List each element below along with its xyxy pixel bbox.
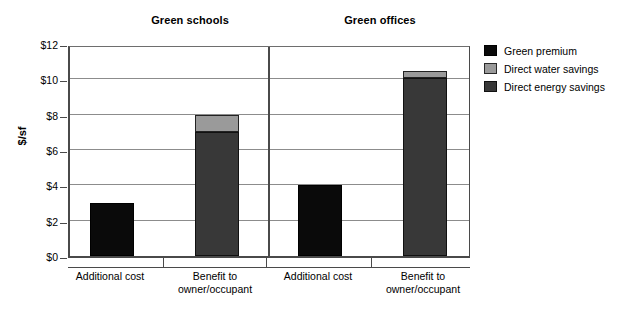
x-tick-label: Additional cost <box>50 270 170 283</box>
bar-segment <box>403 78 447 256</box>
legend-item-direct-energy-savings: Direct energy savings <box>484 80 605 93</box>
legend-label: Direct water savings <box>504 63 599 75</box>
y-tick-label: $10 <box>14 74 58 86</box>
y-tick-label: $2 <box>14 216 58 228</box>
bar-segment <box>195 115 239 133</box>
y-tick-label: $8 <box>14 110 58 122</box>
legend-swatch-icon <box>484 45 497 56</box>
bar-chart: Green schools Green offices $/sf $12$10$… <box>0 0 620 320</box>
y-tick-label: $6 <box>14 145 58 157</box>
bar <box>90 203 134 256</box>
y-tick-label: $4 <box>14 180 58 192</box>
legend: Green premium Direct water savings Direc… <box>484 44 605 98</box>
panel-title-offices: Green offices <box>300 14 460 26</box>
bar-segment <box>195 132 239 256</box>
y-tick-mark <box>60 46 67 47</box>
y-tick-mark <box>60 187 67 188</box>
x-tick-mark <box>266 258 267 267</box>
legend-item-direct-water-savings: Direct water savings <box>484 62 605 75</box>
y-tick-mark <box>60 81 67 82</box>
legend-label: Green premium <box>504 45 577 57</box>
legend-item-green-premium: Green premium <box>484 44 605 57</box>
bar-segment <box>90 203 134 256</box>
bar <box>298 185 342 256</box>
bar <box>403 71 447 257</box>
y-tick-label: $0 <box>14 251 58 263</box>
x-axis-baseline <box>68 267 470 268</box>
y-tick-mark <box>60 258 67 259</box>
legend-label: Direct energy savings <box>504 81 605 93</box>
x-tick-label: Benefit toowner/occupant <box>363 270 483 296</box>
bar <box>195 115 239 256</box>
x-tick-mark <box>163 258 164 267</box>
panel-divider <box>268 47 270 256</box>
legend-swatch-icon <box>484 81 497 92</box>
y-tick-mark <box>60 223 67 224</box>
plot-area <box>68 46 470 258</box>
panel-title-schools: Green schools <box>110 14 270 26</box>
y-tick-label: $12 <box>14 39 58 51</box>
x-tick-mark <box>371 258 372 267</box>
bar-segment <box>298 185 342 256</box>
legend-swatch-icon <box>484 63 497 74</box>
x-tick-label: Additional cost <box>258 270 378 283</box>
bar-segment <box>403 71 447 78</box>
x-tick-label: Benefit toowner/occupant <box>155 270 275 296</box>
y-tick-mark <box>60 117 67 118</box>
y-tick-mark <box>60 152 67 153</box>
